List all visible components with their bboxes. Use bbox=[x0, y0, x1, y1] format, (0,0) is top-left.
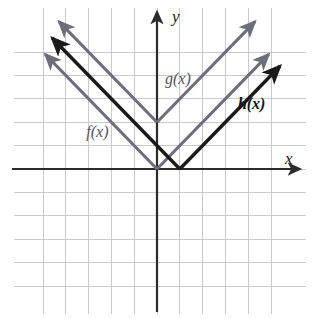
x-axis-label: x bbox=[284, 149, 293, 168]
curve-label-f: f(x) bbox=[86, 123, 108, 141]
curve-label-g: g(x) bbox=[165, 70, 191, 88]
y-axis-label: y bbox=[170, 7, 180, 26]
absolute-value-graph-figure: y x f(x) g(x) h(x) bbox=[0, 0, 315, 319]
coordinate-plane-svg: y x f(x) g(x) h(x) bbox=[0, 0, 315, 319]
curve-label-h: h(x) bbox=[238, 95, 266, 113]
